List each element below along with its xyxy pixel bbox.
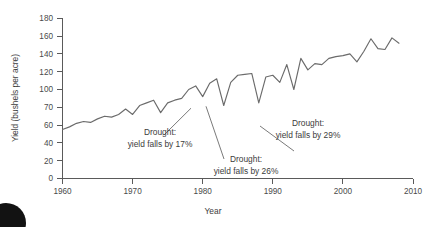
y-tick-label: 0	[48, 174, 53, 183]
y-tick-label: 160	[39, 32, 53, 41]
x-tick-label: 1960	[53, 187, 72, 196]
yield-series-line	[63, 38, 399, 130]
y-tick-label: 70	[44, 103, 54, 112]
y-tick-label: 100	[39, 85, 53, 94]
x-tick-label: 2010	[404, 187, 423, 196]
x-tick-label: 2000	[334, 187, 353, 196]
x-tick-label: 1990	[264, 187, 283, 196]
yield-line-chart: 0 20 40 60 70 100 120 140 160 180 1960	[0, 0, 429, 227]
y-tick-label: 60	[44, 121, 54, 130]
y-tick-label: 20	[44, 157, 54, 166]
leader-line-drought-1983	[206, 106, 224, 159]
y-tick-label: 40	[44, 139, 54, 148]
x-tick-label: 1980	[194, 187, 213, 196]
y-tick-label: 180	[39, 14, 53, 23]
y-tick-group: 0 20 40 60 70 100 120 140 160 180	[39, 14, 62, 183]
annotation-detail: yield falls by 29%	[276, 130, 341, 140]
annotation-detail: yield falls by 26%	[214, 166, 279, 176]
y-tick-label: 140	[39, 50, 53, 59]
annotation-leaders	[164, 106, 294, 159]
annotation-title: Drought:	[230, 154, 262, 164]
y-tick-label: 120	[39, 68, 53, 77]
x-tick-label: 1970	[123, 187, 142, 196]
chart-figure: 0 20 40 60 70 100 120 140 160 180 1960	[0, 0, 429, 227]
y-axis-title: Yield (bushels per acre)	[10, 54, 20, 142]
annotation-detail: yield falls by 17%	[128, 139, 193, 149]
annotation-drought-1993: Drought: yield falls by 29%	[276, 118, 341, 140]
x-axis-title: Year	[205, 206, 222, 216]
x-tick-group: 1960 1970 1980 1990 2000 2010	[53, 179, 422, 197]
annotation-drought-1974: Drought: yield falls by 17%	[128, 127, 193, 149]
annotation-title: Drought:	[144, 127, 176, 137]
annotation-title: Drought:	[292, 118, 324, 128]
